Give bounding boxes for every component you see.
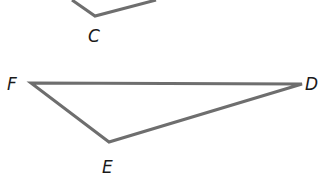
angle-c-sides [72,0,156,16]
vertex-label-c: C [88,28,100,45]
triangle-def [31,83,302,142]
vertex-label-e: E [102,159,113,176]
partial-figure-c [72,0,156,16]
vertex-label-d: D [305,76,318,93]
geometry-diagram [0,0,320,182]
triangle-fde [31,83,302,142]
vertex-label-f: F [7,76,17,93]
